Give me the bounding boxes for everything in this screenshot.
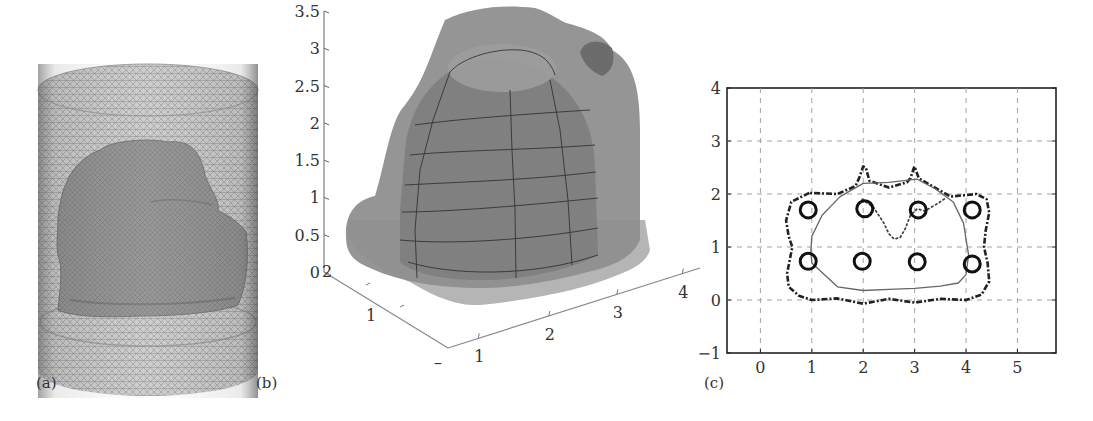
y-tick-mark <box>366 283 370 285</box>
z-tick-mark <box>324 48 329 50</box>
z-tick-label: 1 <box>310 188 320 207</box>
surface-3d-chart: 00.511.522.533.5 12–1234 <box>250 0 720 421</box>
x-tick-label: 2 <box>858 358 868 377</box>
z-tick-label: 2.5 <box>295 77 320 96</box>
z-tick-mark <box>324 235 329 237</box>
z-tick-mark <box>324 11 329 13</box>
z-tick-label: 2 <box>310 114 320 133</box>
z-tick-label: 0 <box>310 263 320 282</box>
y-tick-label-extra: – <box>434 353 442 372</box>
electrode-marker <box>964 202 980 218</box>
mesh-cylinder-figure <box>0 0 280 421</box>
z-tick-mark <box>324 160 329 162</box>
z-tick-mark <box>324 197 329 199</box>
z-tick-label: 3.5 <box>295 2 320 21</box>
electrode-marker <box>910 202 926 218</box>
x-tick-label: 2 <box>545 325 555 344</box>
electrode-marker <box>800 202 816 218</box>
cylinder-shading <box>38 64 258 398</box>
series-reconstructed-boundary <box>811 179 969 290</box>
electrode-marker <box>909 254 925 270</box>
x-tick-label: 3 <box>613 303 623 322</box>
y-tick-label: 2 <box>322 262 332 281</box>
z-tick-mark <box>324 123 329 125</box>
electrode-markers <box>800 201 980 272</box>
z-tick-label: 1.5 <box>295 151 320 170</box>
x-tick-label: 5 <box>1012 358 1022 377</box>
electrode-marker <box>857 201 873 217</box>
panel-label-b: (b) <box>256 374 277 392</box>
panel-a: (a) <box>0 0 280 421</box>
axis-ticks: 012345−101234 <box>697 79 1056 377</box>
electrode-marker <box>854 253 870 269</box>
z-tick-label: 0.5 <box>295 226 320 245</box>
panel-label-a: (a) <box>36 374 57 392</box>
series-outer-boundary <box>786 166 989 303</box>
y-tick-label: 1 <box>366 306 376 325</box>
electrode-marker <box>964 256 980 272</box>
x-tick-label: 4 <box>961 358 971 377</box>
x-tick-label: 4 <box>678 283 688 302</box>
x-tick-label: 3 <box>910 358 920 377</box>
y-tick-mark <box>400 305 404 307</box>
x-tick-label: 0 <box>755 358 765 377</box>
contour-series <box>786 166 989 303</box>
panel-b: 00.511.522.533.5 12–1234 (b) <box>250 0 720 421</box>
z-tick-label: 3 <box>310 39 320 58</box>
wireframe-top-cap <box>448 44 556 92</box>
electrode-marker <box>800 253 816 269</box>
grid-lines <box>727 88 1056 353</box>
x-tick-label: 1 <box>807 358 817 377</box>
x-tick-label: 1 <box>474 347 484 366</box>
series-target-boundary-notch <box>862 198 945 239</box>
plot-frame <box>727 88 1056 353</box>
z-tick-mark <box>324 86 329 88</box>
